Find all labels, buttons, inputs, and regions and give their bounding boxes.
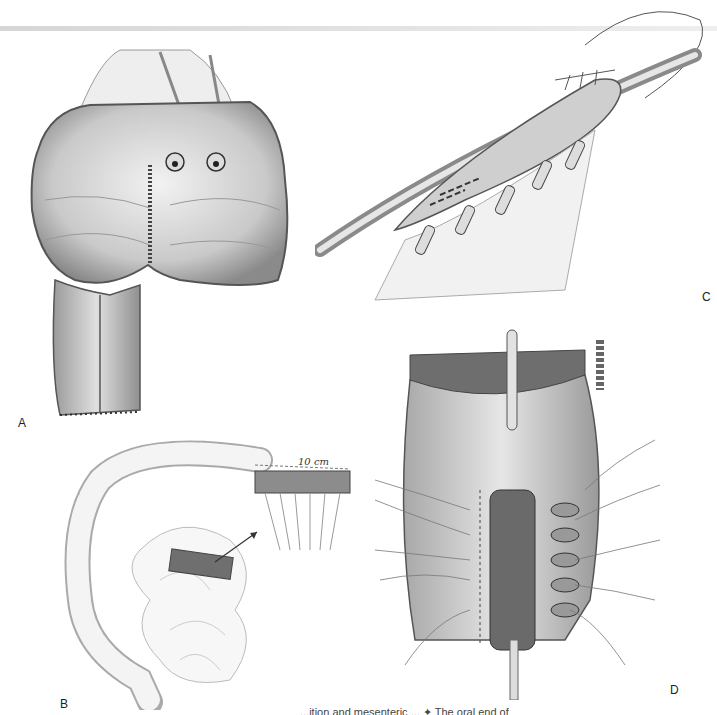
panel-label-b: B xyxy=(60,697,68,711)
excised-segment: 10 cm xyxy=(250,455,360,565)
figure-caption-fragment: ...ition and mesenteric ... ✦ The oral e… xyxy=(300,704,509,715)
pouch-illustration xyxy=(20,40,310,430)
panel-label-c: C xyxy=(702,290,711,304)
catheter-wrap-illustration xyxy=(315,0,715,305)
panel-a xyxy=(20,40,310,430)
panel-d xyxy=(375,320,675,700)
panel-c xyxy=(315,0,715,305)
dimension-label: 10 cm xyxy=(298,456,329,467)
pouch-reconstruction-illustration xyxy=(375,320,675,700)
panel-label-a: A xyxy=(18,416,26,430)
panel-label-d: D xyxy=(670,683,679,697)
